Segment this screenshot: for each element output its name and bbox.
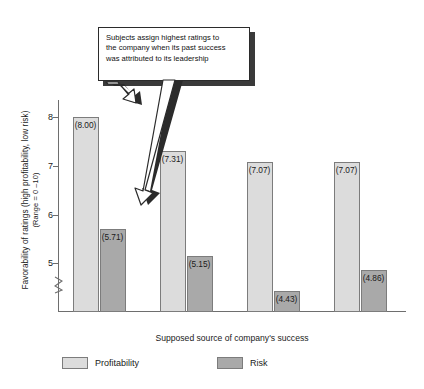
- bar-risk[interactable]: (4.43): [274, 291, 300, 312]
- bar-value-label: (8.00): [75, 121, 97, 130]
- legend-label: Risk: [250, 358, 268, 368]
- bar-value-label: (7.07): [336, 166, 358, 175]
- callout-line-2: the company when its past success: [106, 43, 242, 53]
- bar-value-label: (4.86): [363, 274, 385, 283]
- bar-profitability[interactable]: (8.00): [73, 117, 99, 312]
- bar-profitability[interactable]: (7.07): [334, 162, 360, 312]
- callout-box: Subjects assign highest ratings to the c…: [98, 27, 250, 81]
- bar-value-label: (7.07): [249, 166, 271, 175]
- bar-risk[interactable]: (5.15): [187, 256, 213, 312]
- callout-line-1: Subjects assign highest ratings to: [106, 33, 242, 43]
- y-tick-mark: [53, 117, 59, 118]
- legend-swatch: [217, 357, 243, 369]
- callout-line-3: was attributed to its leadership: [106, 54, 242, 64]
- y-tick-mark: [53, 215, 59, 216]
- chart-figure: Favorability of ratings (high profitabil…: [0, 0, 424, 389]
- legend-item[interactable]: Risk: [217, 357, 268, 369]
- bar-risk[interactable]: (4.86): [361, 270, 387, 312]
- y-tick-label: 5: [40, 259, 53, 268]
- bar-value-label: (4.43): [276, 295, 298, 304]
- x-axis-title: Supposed source of company's success: [58, 333, 406, 343]
- chart-legend: ProfitabilityRisk: [62, 357, 362, 379]
- bar-profitability[interactable]: (7.07): [247, 162, 273, 312]
- y-tick-label: 6: [40, 211, 53, 220]
- bar-value-label: (5.71): [102, 233, 124, 242]
- legend-item[interactable]: Profitability: [62, 357, 139, 369]
- plot-area: 5678 (8.00)(5.71)Leadership(7.31)(5.15)E…: [58, 100, 406, 312]
- bar-risk[interactable]: (5.71): [100, 229, 126, 312]
- bar-value-label: (5.15): [189, 260, 211, 269]
- y-axis-title-line1: Favorability of ratings (high profitabil…: [21, 110, 30, 289]
- y-axis-title: Favorability of ratings (high profitabil…: [18, 95, 44, 305]
- axis-break-icon: [54, 276, 63, 294]
- y-tick-label: 7: [40, 162, 53, 171]
- y-tick-mark: [53, 263, 59, 264]
- y-tick-mark: [53, 166, 59, 167]
- legend-label: Profitability: [95, 358, 139, 368]
- y-tick-label: 8: [40, 113, 53, 122]
- bar-profitability[interactable]: (7.31): [160, 151, 186, 312]
- bar-value-label: (7.31): [162, 155, 184, 164]
- legend-swatch: [62, 357, 88, 369]
